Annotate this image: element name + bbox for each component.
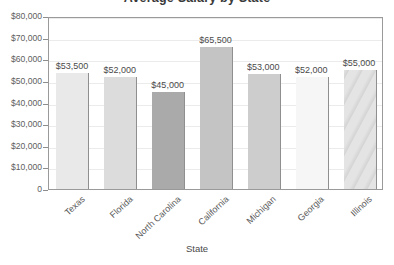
y-tick-mark	[43, 17, 48, 18]
y-tick-mark	[43, 125, 48, 126]
y-tick-mark	[43, 104, 48, 105]
bar[interactable]	[56, 73, 89, 189]
bar-value-label: $55,000	[319, 58, 394, 68]
bar[interactable]	[248, 74, 281, 189]
y-tick-label: $40,000	[0, 98, 42, 108]
bar-chart: Average Salary by State 0$10,000$20,000$…	[0, 0, 394, 265]
bar-value-label: $65,500	[176, 35, 256, 45]
y-tick-label: $10,000	[0, 162, 42, 172]
bar[interactable]	[104, 77, 137, 189]
y-tick-mark	[43, 190, 48, 191]
chart-title: Average Salary by State	[0, 0, 394, 5]
y-tick-label: $70,000	[0, 33, 42, 43]
y-tick-mark	[43, 82, 48, 83]
bar-texture	[344, 70, 376, 189]
y-tick-label: $50,000	[0, 76, 42, 86]
y-tick-label: 0	[0, 184, 42, 194]
y-tick-mark	[43, 39, 48, 40]
y-tick-label: $30,000	[0, 119, 42, 129]
y-tick-mark	[43, 147, 48, 148]
bar-value-label: $52,000	[80, 65, 160, 75]
y-tick-mark	[43, 168, 48, 169]
bar-value-label: $45,000	[128, 80, 208, 90]
y-tick-label: $80,000	[0, 11, 42, 21]
bar[interactable]	[296, 77, 329, 189]
bar[interactable]	[152, 92, 185, 189]
x-axis-title: State	[0, 243, 394, 254]
y-tick-label: $20,000	[0, 141, 42, 151]
gridline	[49, 18, 382, 19]
bar[interactable]	[344, 70, 377, 189]
